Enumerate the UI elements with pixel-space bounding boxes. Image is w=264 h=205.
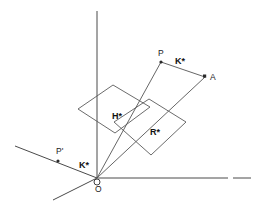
geometry-diagram: P A P' O K* K* H* R*: [0, 0, 264, 205]
label-point-a: A: [210, 72, 216, 82]
point-marker-a: [203, 75, 206, 78]
point-marker-p-prime: [56, 159, 59, 162]
figure-canvas: P A P' O K* K* H* R*: [0, 0, 264, 205]
label-k-star-upper: K*: [175, 56, 185, 66]
plane-h-star: [78, 85, 150, 133]
label-point-p: P: [158, 48, 164, 58]
label-point-p-prime: P': [56, 146, 64, 156]
label-h-star: H*: [112, 111, 122, 121]
ray-origin-to-p: [97, 62, 161, 178]
axis-lower-left: [53, 178, 97, 200]
label-r-star: R*: [150, 127, 160, 137]
point-marker-p: [159, 60, 162, 63]
label-origin: O: [95, 184, 102, 194]
label-k-star-lower: K*: [79, 160, 89, 170]
